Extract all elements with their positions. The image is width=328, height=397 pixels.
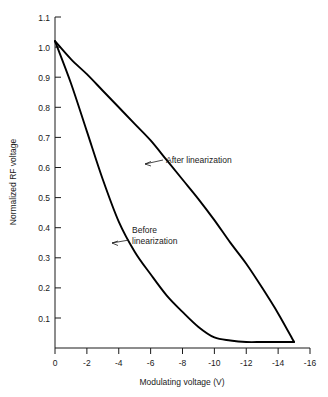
y-tick-label-0.9: 0.9 xyxy=(38,73,50,83)
x-tick-label--8: -8 xyxy=(179,358,187,368)
series-line-after-linearization xyxy=(55,41,294,342)
x-tick-label--6: -6 xyxy=(147,358,155,368)
x-tick-label--4: -4 xyxy=(115,358,123,368)
annotation-before-label-line2: linearization xyxy=(132,236,178,246)
x-tick-label--12: -12 xyxy=(240,358,253,368)
x-tick-label--16: -16 xyxy=(304,358,317,368)
y-tick-label-0.8: 0.8 xyxy=(38,103,50,113)
data-series-group xyxy=(55,41,294,342)
y-axis-tick-labels: 1.1 1.0 0.9 0.8 0.7 0.6 0.5 0.4 0.3 0.2 … xyxy=(38,13,50,324)
axis-lines xyxy=(55,17,310,348)
x-tick-label--14: -14 xyxy=(272,358,285,368)
y-axis-ticks xyxy=(55,17,61,318)
y-tick-label-1.0: 1.0 xyxy=(38,43,50,53)
x-axis-title: Modulating voltage (V) xyxy=(139,377,224,387)
y-tick-label-0.2: 0.2 xyxy=(38,283,50,293)
series-line-before-linearization xyxy=(55,41,294,342)
x-axis-tick-labels: 0 -2 -4 -6 -8 -10 -12 -14 -16 xyxy=(53,358,317,368)
y-tick-label-0.3: 0.3 xyxy=(38,253,50,263)
y-tick-label-0.6: 0.6 xyxy=(38,163,50,173)
y-axis-title: Normalized RF voltage xyxy=(8,139,18,226)
x-tick-label--10: -10 xyxy=(208,358,221,368)
y-tick-label-0.4: 0.4 xyxy=(38,223,50,233)
annotation-before-label-line1: Before xyxy=(132,225,157,235)
x-tick-label--2: -2 xyxy=(83,358,91,368)
chart-figure: 1.1 1.0 0.9 0.8 0.7 0.6 0.5 0.4 0.3 0.2 … xyxy=(0,0,328,397)
y-tick-label-0.7: 0.7 xyxy=(38,133,50,143)
before-arrow-icon xyxy=(112,241,118,246)
annotation-after-linearization: After linearization xyxy=(145,155,232,166)
y-tick-label-1.1: 1.1 xyxy=(38,13,50,23)
after-leader-line xyxy=(145,160,163,164)
after-arrow-icon xyxy=(145,162,151,167)
x-tick-label-0: 0 xyxy=(53,358,58,368)
line-chart: 1.1 1.0 0.9 0.8 0.7 0.6 0.5 0.4 0.3 0.2 … xyxy=(0,0,328,397)
y-tick-label-0.5: 0.5 xyxy=(38,193,50,203)
annotation-after-label: After linearization xyxy=(166,155,232,165)
y-tick-label-0.1: 0.1 xyxy=(38,314,50,324)
x-axis-ticks xyxy=(55,348,310,354)
axes-group xyxy=(55,17,310,348)
